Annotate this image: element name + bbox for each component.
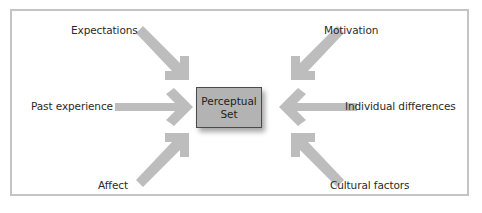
- factor-label-cultural-factors: Cultural factors: [330, 179, 409, 191]
- arrow-affect-icon: [136, 133, 189, 187]
- arrow-past-experience-icon: [115, 88, 193, 126]
- center-label-line2: Set: [220, 108, 237, 121]
- factor-label-past-experience: Past experience: [31, 100, 113, 112]
- factor-label-affect: Affect: [98, 179, 128, 191]
- factor-label-individual-differences: Individual differences: [345, 100, 456, 112]
- center-label-line1: Perceptual: [201, 95, 257, 108]
- perceptual-set-box: Perceptual Set: [196, 87, 262, 128]
- arrow-expectations-icon: [136, 26, 189, 80]
- factor-label-motivation: Motivation: [324, 24, 378, 36]
- factor-label-expectations: Expectations: [71, 24, 138, 36]
